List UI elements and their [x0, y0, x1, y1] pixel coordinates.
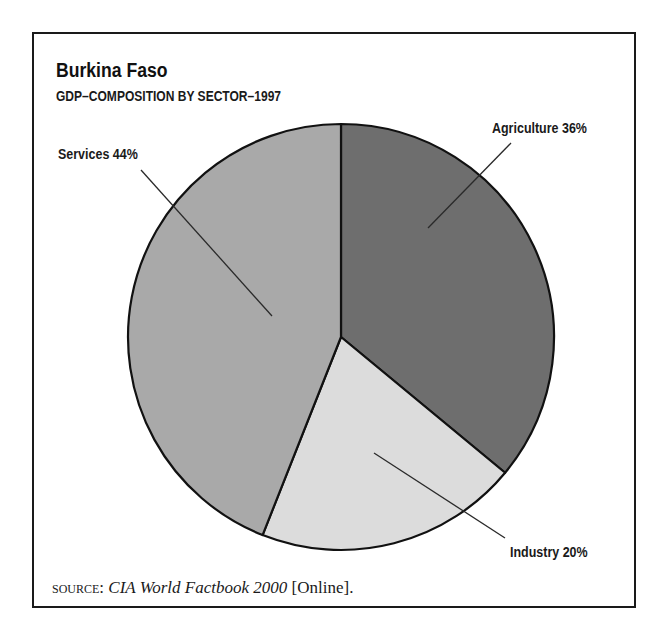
label-services: Services 44%: [58, 146, 138, 162]
source-prefix: SOURCE:: [52, 578, 104, 597]
label-industry: Industry 20%: [510, 544, 588, 560]
source-note: SOURCE: CIA World Factbook 2000 [Online]…: [52, 578, 353, 598]
source-suffix: [Online].: [292, 578, 354, 597]
source-title: CIA World Factbook 2000: [108, 578, 287, 597]
label-agriculture: Agriculture 36%: [492, 120, 587, 136]
